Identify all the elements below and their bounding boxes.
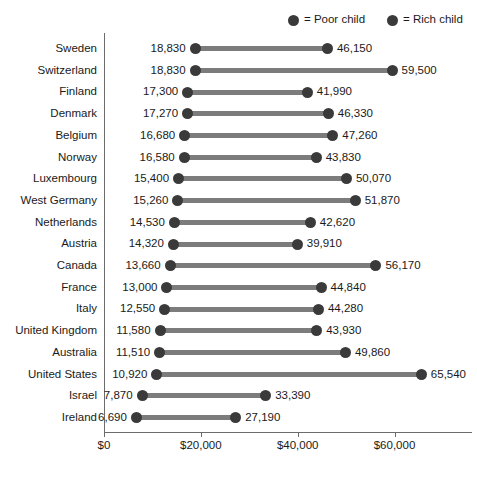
rich-child-dot	[260, 390, 271, 401]
x-axis-line	[104, 432, 472, 433]
x-axis-tick	[395, 432, 396, 437]
poor-child-dot	[173, 173, 184, 184]
table-row: United States10,92065,540	[0, 364, 477, 386]
rich-child-value: 49,860	[355, 342, 390, 364]
table-row: Luxembourg15,40050,070	[0, 168, 477, 190]
rich-child-value: 59,500	[402, 60, 437, 82]
poor-child-value: 17,300	[118, 81, 178, 103]
poor-child-dot	[137, 390, 148, 401]
rich-child-dot	[230, 412, 241, 423]
table-row: Switzerland18,83059,500	[0, 60, 477, 82]
rich-child-dot	[350, 195, 361, 206]
poor-child-dot	[179, 152, 190, 163]
country-label: Australia	[0, 342, 97, 364]
rich-child-value: 44,840	[331, 277, 366, 299]
connector-bar	[173, 242, 297, 247]
table-row: United Kingdom11,58043,930	[0, 320, 477, 342]
legend-item-poor-child: = Poor child	[288, 14, 365, 26]
rich-child-value: 43,830	[326, 147, 361, 169]
rich-child-value: 33,390	[275, 385, 310, 407]
poor-child-dot	[190, 65, 201, 76]
country-label: West Germany	[0, 190, 97, 212]
table-row: France13,00044,840	[0, 277, 477, 299]
table-row: Italy12,55044,280	[0, 298, 477, 320]
country-label: Finland	[0, 81, 97, 103]
poor-child-value: 17,270	[118, 103, 178, 125]
country-label: Norway	[0, 147, 97, 169]
rich-child-dot	[370, 260, 381, 271]
country-label: Denmark	[0, 103, 97, 125]
table-row: Netherlands14,53042,620	[0, 212, 477, 234]
poor-child-value: 18,830	[126, 60, 186, 82]
rich-child-dot	[302, 87, 313, 98]
rich-child-dot	[323, 108, 334, 119]
x-axis-tick-label: $0	[98, 439, 111, 451]
table-row: Belgium16,68047,260	[0, 125, 477, 147]
plot-area: Sweden18,83046,150Switzerland18,83059,50…	[0, 33, 477, 433]
country-label: Switzerland	[0, 60, 97, 82]
x-axis-tick-label: $20,000	[180, 439, 222, 451]
rich-child-value: 51,870	[365, 190, 400, 212]
rich-child-value: 27,190	[245, 407, 280, 429]
rich-child-dot	[416, 369, 427, 380]
poor-child-value: 13,000	[97, 277, 157, 299]
chart-legend: = Poor child = Rich child	[288, 10, 463, 30]
poor-child-value: 14,320	[104, 233, 164, 255]
rich-child-value: 46,150	[337, 38, 372, 60]
poor-child-dot	[131, 412, 142, 423]
rich-dot-icon	[387, 15, 398, 26]
rich-child-value: 43,930	[326, 320, 361, 342]
connector-bar	[160, 328, 317, 333]
poor-child-value: 15,260	[108, 190, 168, 212]
poor-child-value: 16,580	[115, 147, 175, 169]
rich-child-dot	[311, 152, 322, 163]
table-row: Australia11,51049,860	[0, 342, 477, 364]
country-label: United States	[0, 364, 97, 386]
country-label: Italy	[0, 298, 97, 320]
poor-child-value: 11,510	[90, 342, 150, 364]
connector-bar	[160, 350, 346, 355]
connector-bar	[170, 263, 376, 268]
poor-child-value: 16,680	[115, 125, 175, 147]
poor-child-value: 18,830	[126, 38, 186, 60]
poor-child-dot	[168, 239, 179, 250]
connector-bar	[178, 198, 355, 203]
poor-child-dot	[155, 325, 166, 336]
poor-child-dot	[182, 108, 193, 119]
poor-child-value: 12,550	[95, 298, 155, 320]
country-label: Canada	[0, 255, 97, 277]
rich-child-dot	[387, 65, 398, 76]
connector-bar	[157, 372, 421, 377]
rich-child-dot	[311, 325, 322, 336]
legend-label-poor-child: = Poor child	[304, 14, 365, 26]
poor-child-dot	[182, 87, 193, 98]
rich-child-value: 50,070	[356, 168, 391, 190]
rich-child-value: 56,170	[385, 255, 420, 277]
rich-child-dot	[305, 217, 316, 228]
poor-child-value: 7,870	[73, 385, 133, 407]
country-label: Belgium	[0, 125, 97, 147]
rich-child-dot	[316, 282, 327, 293]
country-label: Luxembourg	[0, 168, 97, 190]
country-label: Netherlands	[0, 212, 97, 234]
table-row: Sweden18,83046,150	[0, 38, 477, 60]
x-axis-tick-label: $40,000	[277, 439, 319, 451]
table-row: West Germany15,26051,870	[0, 190, 477, 212]
table-row: Canada13,66056,170	[0, 255, 477, 277]
rich-child-value: 41,990	[317, 81, 352, 103]
poor-child-value: 13,660	[101, 255, 161, 277]
x-axis-tick-label: $60,000	[374, 439, 416, 451]
country-label: United Kingdom	[0, 320, 97, 342]
x-axis-tick	[104, 432, 105, 437]
rich-child-dot	[322, 43, 333, 54]
country-label: France	[0, 277, 97, 299]
connector-bar	[165, 307, 319, 312]
poor-child-dot	[169, 217, 180, 228]
poor-child-dot	[161, 282, 172, 293]
poor-child-value: 15,400	[109, 168, 169, 190]
rich-child-dot	[327, 130, 338, 141]
connector-bar	[174, 220, 310, 225]
legend-item-rich-child: = Rich child	[387, 14, 463, 26]
poor-child-value: 14,530	[105, 212, 165, 234]
x-axis-tick	[298, 432, 299, 437]
